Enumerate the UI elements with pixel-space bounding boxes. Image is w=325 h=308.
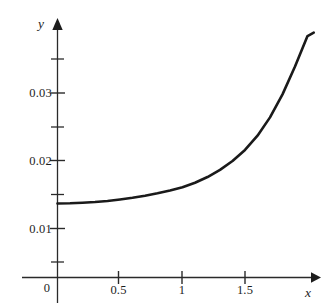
x-axis (22, 272, 321, 283)
x-tick-label-0-5: 0.5 (107, 283, 131, 298)
data-curve (58, 33, 314, 204)
x-axis-label: x (305, 285, 311, 301)
x-tick-label-1: 1 (174, 283, 190, 298)
chart-figure: 0.03 0.02 0.01 0.5 1 1.5 0 y x (0, 0, 325, 308)
y-tick-label-0-02: 0.02 (16, 154, 52, 169)
y-tick-label-0-03: 0.03 (16, 86, 52, 101)
x-tick-label-1-5: 1.5 (233, 283, 257, 298)
y-axis-label: y (38, 16, 44, 32)
y-tick-label-0-01: 0.01 (16, 222, 52, 237)
origin-label: 0 (39, 281, 55, 296)
